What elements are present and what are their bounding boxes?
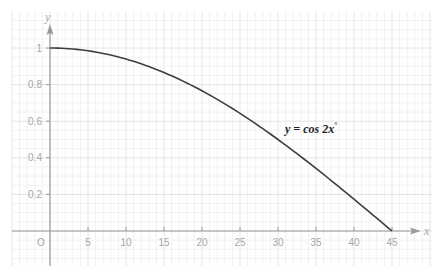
- y-tick-label: 0.8: [28, 79, 42, 90]
- x-tick-label: 20: [196, 237, 208, 248]
- x-tick-label: 10: [120, 237, 132, 248]
- x-tick-label: 5: [85, 237, 91, 248]
- chart-canvas: 510152025303540450.20.40.60.81 y = cos 2…: [0, 0, 434, 266]
- grid: [12, 12, 432, 266]
- x-tick-label: 40: [348, 237, 360, 248]
- x-tick-label: 30: [272, 237, 284, 248]
- y-tick-label: 0.4: [28, 152, 42, 163]
- axes: [12, 24, 421, 266]
- x-tick-label: 35: [310, 237, 322, 248]
- y-tick-label: 0.2: [28, 189, 42, 200]
- curve-label: y = cos 2x°: [283, 121, 337, 136]
- x-tick-label: 45: [386, 237, 398, 248]
- origin-label: O: [37, 237, 45, 248]
- x-tick-label: 25: [234, 237, 246, 248]
- degree-superscript: °: [334, 121, 337, 130]
- y-tick-label: 0.6: [28, 116, 42, 127]
- y-tick-label: 1: [36, 43, 42, 54]
- y-axis-label: y: [44, 10, 51, 24]
- x-tick-label: 15: [158, 237, 170, 248]
- x-axis-label: x: [423, 224, 430, 238]
- ticks: 510152025303540450.20.40.60.81: [28, 43, 398, 249]
- curve-label-text: y = cos 2x: [283, 122, 334, 136]
